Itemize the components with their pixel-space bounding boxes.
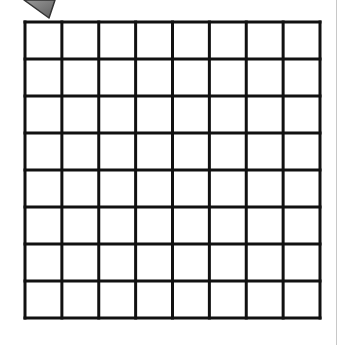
grid-cell	[62, 207, 99, 244]
grid-cell	[136, 59, 173, 96]
grid-cell	[136, 96, 173, 133]
grid-cell	[283, 207, 320, 244]
grid-cell	[246, 96, 283, 133]
grid-cell	[136, 244, 173, 281]
grid-diagram	[0, 0, 338, 345]
grid-cell	[283, 22, 320, 59]
grid-cell	[283, 281, 320, 318]
grid-cell	[99, 133, 136, 170]
grid-cell	[136, 22, 173, 59]
grid-cell	[246, 207, 283, 244]
grid-cell	[173, 96, 210, 133]
grid-cell	[136, 281, 173, 318]
grid-cell	[62, 96, 99, 133]
grid-cell	[62, 59, 99, 96]
grid-cell	[99, 244, 136, 281]
grid-cell	[25, 133, 62, 170]
grid-cell	[62, 281, 99, 318]
grid-cell	[25, 170, 62, 207]
grid-cell	[99, 281, 136, 318]
grid-cell	[25, 22, 62, 59]
grid-cell	[209, 207, 246, 244]
grid-cell	[99, 59, 136, 96]
grid-cell	[283, 133, 320, 170]
grid-cell	[173, 244, 210, 281]
grid-cell	[209, 170, 246, 207]
grid-cell	[246, 170, 283, 207]
diagram-canvas: 8x8 grid	[0, 0, 338, 345]
grid-cell	[99, 170, 136, 207]
grid-cell	[246, 133, 283, 170]
grid-cell	[25, 96, 62, 133]
grid-cell	[246, 59, 283, 96]
grid-cell	[209, 59, 246, 96]
grid-cell	[25, 244, 62, 281]
grid-cell	[173, 170, 210, 207]
grid-cell	[283, 244, 320, 281]
grid-cell	[283, 170, 320, 207]
grid-cell	[62, 133, 99, 170]
grid-cell	[62, 22, 99, 59]
grid-cell	[246, 22, 283, 59]
grid-cell	[209, 244, 246, 281]
grid-cell	[25, 59, 62, 96]
grid-cell	[173, 133, 210, 170]
grid-cell	[62, 170, 99, 207]
grid-cell	[209, 22, 246, 59]
grid-cell	[283, 59, 320, 96]
grid-cell	[209, 133, 246, 170]
grid-cell	[173, 207, 210, 244]
grid-cell	[136, 207, 173, 244]
grid-cell	[99, 96, 136, 133]
grid-cell	[209, 281, 246, 318]
grid-cell	[62, 244, 99, 281]
grid-cell	[173, 59, 210, 96]
pointer-arrow-icon	[24, 0, 55, 18]
grid-cell	[25, 281, 62, 318]
grid-cell	[246, 244, 283, 281]
grid-cell	[99, 207, 136, 244]
grid-cell	[246, 281, 283, 318]
grid-cell	[25, 207, 62, 244]
grid-cell	[136, 133, 173, 170]
grid-cell	[209, 96, 246, 133]
grid-cell	[283, 96, 320, 133]
grid-cell	[173, 22, 210, 59]
grid-cell	[99, 22, 136, 59]
grid-cell	[173, 281, 210, 318]
right-edge-divider	[336, 0, 337, 345]
grid-cell	[136, 170, 173, 207]
